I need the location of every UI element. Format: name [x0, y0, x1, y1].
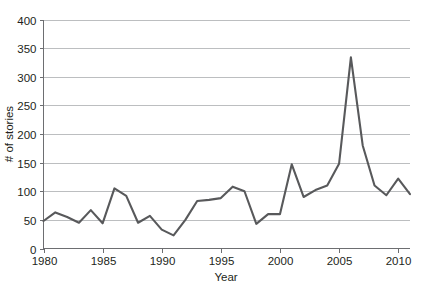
x-tick-label-1985: 1985 [91, 255, 117, 267]
data-series-line [44, 57, 411, 235]
x-tick-label-2005: 2005 [327, 255, 353, 267]
x-tick-label-2010: 2010 [386, 255, 412, 267]
x-tick-label-1990: 1990 [150, 255, 176, 267]
y-tick-label-250: 250 [17, 100, 36, 112]
y-tick-label-400: 400 [17, 15, 36, 27]
y-tick-label-100: 100 [17, 186, 36, 198]
line-chart: 050100150200250300350400 198019851990199… [0, 0, 421, 292]
chart-container: 050100150200250300350400 198019851990199… [0, 0, 421, 292]
y-axis-tick-labels: 050100150200250300350400 [17, 15, 36, 256]
y-axis-title: # of stories [3, 106, 15, 162]
y-tick-label-200: 200 [17, 129, 36, 141]
y-tick-label-300: 300 [17, 72, 36, 84]
gridlines-group [44, 21, 411, 221]
x-tick-label-1995: 1995 [209, 255, 235, 267]
x-tick-label-2000: 2000 [268, 255, 294, 267]
y-tick-label-50: 50 [24, 215, 37, 227]
x-axis-title: Year [214, 271, 237, 283]
y-tick-label-150: 150 [17, 158, 36, 170]
x-axis-tick-labels: 1980198519901995200020052010 [32, 255, 412, 267]
x-tick-label-1980: 1980 [32, 255, 58, 267]
y-tick-label-350: 350 [17, 43, 36, 55]
